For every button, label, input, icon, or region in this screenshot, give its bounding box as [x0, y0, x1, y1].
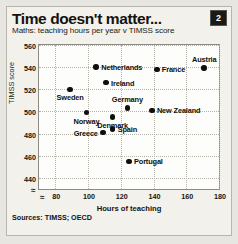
data-point-portugal[interactable]: [126, 159, 132, 165]
chart-number-badge: 2: [210, 10, 227, 26]
x-axis-label: Hours of teaching: [38, 204, 220, 213]
data-point-new-zealand[interactable]: [149, 108, 155, 114]
y-axis-tick-label: 560: [24, 42, 36, 51]
y-axis-tick-label: 480: [24, 130, 36, 139]
data-point-sweden[interactable]: [67, 87, 73, 93]
source-note: Sources: TIMSS; OECD: [12, 213, 92, 222]
data-point-label: Netherlands: [101, 63, 142, 72]
data-point-label: Austria: [192, 55, 216, 64]
y-axis-break-icon: ≈: [31, 186, 35, 195]
chart-page: Time doesn't matter... 2 Maths: teaching…: [0, 0, 238, 244]
y-axis-tick-label: 500: [24, 108, 36, 117]
x-axis-tick-label: 100: [83, 192, 95, 201]
y-axis-tick-label: 460: [24, 152, 36, 161]
data-point-greece[interactable]: [100, 130, 106, 136]
data-point-germany[interactable]: [125, 105, 131, 111]
gridline-vertical: 160: [186, 45, 187, 189]
x-axis-tick-label: 160: [181, 192, 193, 201]
gridline-horizontal: 560: [39, 45, 219, 46]
data-point-label: Spain: [118, 125, 137, 134]
gridline-vertical: 80: [55, 45, 56, 189]
chart-subtitle: Maths: teaching hours per year v TIMSS s…: [12, 26, 174, 35]
data-point-label: France: [162, 65, 185, 74]
data-point-ireland[interactable]: [103, 80, 109, 86]
data-point-label: New Zealand: [157, 106, 201, 115]
data-point-label: Greece: [74, 128, 98, 137]
figure: Time doesn't matter... 2 Maths: teaching…: [9, 8, 229, 234]
gridline-horizontal: 480: [39, 134, 219, 135]
x-axis-tick-label: 120: [116, 192, 128, 201]
data-point-france[interactable]: [154, 67, 160, 73]
data-point-label: Ireland: [111, 78, 134, 87]
x-axis-tick-label: 140: [149, 192, 161, 201]
gridline-horizontal: 440: [39, 178, 219, 179]
gridline-vertical: 180: [219, 45, 220, 189]
y-axis-tick-label: 540: [24, 64, 36, 73]
data-point-label: Norway: [74, 117, 100, 126]
gridline-horizontal: 460: [39, 156, 219, 157]
data-point-label: Germany: [112, 95, 143, 104]
data-point-denmark[interactable]: [110, 114, 116, 120]
gridline-horizontal: 520: [39, 89, 219, 90]
data-point-label: Portugal: [134, 157, 163, 166]
y-axis-tick-label: 520: [24, 86, 36, 95]
data-point-austria[interactable]: [201, 65, 207, 71]
x-axis-break-icon: ≈: [40, 193, 44, 202]
x-axis-tick-label: 80: [52, 192, 60, 201]
x-axis-tick-label: 180: [214, 192, 226, 201]
data-point-netherlands[interactable]: [93, 64, 99, 70]
y-axis-tick-label: 440: [24, 174, 36, 183]
plot-area: 44046048050052054056080100120140160180Ne…: [38, 44, 220, 190]
data-point-label: Sweden: [57, 93, 84, 102]
data-point-spain[interactable]: [110, 126, 116, 132]
y-axis-label: TIMSS score: [7, 62, 16, 104]
